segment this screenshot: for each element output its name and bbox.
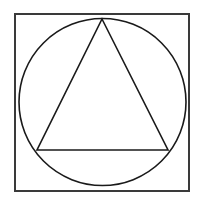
figure-canvas — [0, 0, 203, 207]
geometric-figure-svg — [0, 0, 203, 207]
canvas-background — [0, 0, 203, 207]
